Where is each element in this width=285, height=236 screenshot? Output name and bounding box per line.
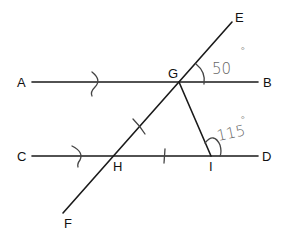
tick-mark-hi <box>164 149 165 163</box>
label-d: D <box>262 149 271 164</box>
label-c: C <box>17 149 26 164</box>
degree-symbol-gid: ° <box>240 114 246 127</box>
label-g: G <box>168 66 178 81</box>
label-i: I <box>209 159 213 174</box>
angle-arc-egb <box>196 64 204 84</box>
degree-symbol-egb: ° <box>240 45 246 58</box>
label-a: A <box>17 75 26 90</box>
label-b: B <box>263 75 272 90</box>
label-f: F <box>64 216 72 231</box>
segment-gi <box>179 82 211 156</box>
angle-value-egb: 50 <box>212 60 231 78</box>
parallel-mark-ab <box>91 72 97 96</box>
label-e: E <box>235 10 244 25</box>
label-h: H <box>113 159 122 174</box>
geometry-diagram: A B C D E F G H I 50 ° 115 ° <box>0 0 285 236</box>
transversal-ef <box>63 22 232 213</box>
